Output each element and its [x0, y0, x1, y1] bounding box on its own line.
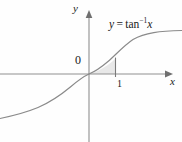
- equation-equals-sign: =: [114, 18, 125, 30]
- equation-variable: x: [147, 18, 152, 30]
- x-axis-label: x: [170, 76, 175, 87]
- y-axis-label: y: [73, 3, 78, 14]
- equation-function-name: tan: [125, 18, 139, 30]
- y-axis-arrowhead: [86, 10, 93, 18]
- curve-equation-label: y = tan−1x: [109, 19, 152, 31]
- arctangent-function-graph: [0, 0, 182, 142]
- origin-label: 0: [75, 54, 81, 66]
- x-tick-label-one: 1: [117, 79, 122, 89]
